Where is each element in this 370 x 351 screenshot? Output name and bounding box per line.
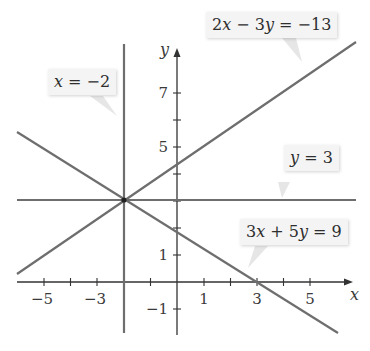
label-var: x <box>256 222 265 241</box>
label-x-eq-neg2: x = −2 <box>48 69 116 95</box>
label-coef: 2 <box>212 15 222 34</box>
intersection-point <box>121 197 126 202</box>
label-var: x <box>54 72 63 91</box>
label-var: y <box>299 222 308 241</box>
label-3x-plus-5y-eq-9: 3x + 5y = 9 <box>240 219 348 245</box>
label-var: y <box>290 148 299 167</box>
svg-text:5: 5 <box>305 290 315 308</box>
svg-text:−5: −5 <box>31 290 53 308</box>
svg-text:1: 1 <box>199 290 209 308</box>
y-axis-arrow-icon <box>174 48 181 57</box>
svg-text:7: 7 <box>158 84 168 102</box>
svg-text:−3: −3 <box>84 290 106 308</box>
svg-text:3: 3 <box>252 290 262 308</box>
callout-pointer-x-eq-neg2 <box>90 96 117 116</box>
label-rest: = −2 <box>63 72 110 91</box>
label-rest: = 3 <box>299 148 333 167</box>
callout-pointer-y-eq-3 <box>278 182 290 198</box>
label-coef: 3 <box>246 222 256 241</box>
svg-text:1: 1 <box>158 246 168 264</box>
label-mid: − 3 <box>231 15 265 34</box>
svg-text:−1: −1 <box>146 300 168 318</box>
svg-text:5: 5 <box>158 138 168 156</box>
label-y-eq-3: y = 3 <box>284 145 339 171</box>
x-axis-label: x <box>350 285 359 304</box>
y-axis-label: y <box>159 40 170 59</box>
label-var: x <box>222 15 231 34</box>
label-rest: = −13 <box>274 15 331 34</box>
callout-pointer-3x-5y <box>248 246 268 268</box>
callout-pointer-2x-3y <box>282 38 302 62</box>
coordinate-plane: −5 −3 1 3 5 −1 1 5 7 x y <box>0 0 370 351</box>
label-var: y <box>265 15 274 34</box>
label-rest: = 9 <box>308 222 342 241</box>
label-mid: + 5 <box>265 222 299 241</box>
label-2x-minus-3y-eq-neg13: 2x − 3y = −13 <box>206 12 337 38</box>
